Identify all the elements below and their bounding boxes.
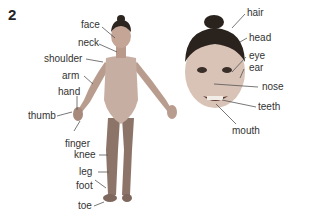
- label-nose: nose: [262, 82, 284, 92]
- label-foot: foot: [76, 181, 93, 191]
- label-mouth: mouth: [232, 126, 260, 136]
- label-neck: neck: [78, 38, 99, 48]
- label-leg: leg: [79, 167, 92, 177]
- label-eye: eye: [249, 51, 265, 61]
- label-teeth: teeth: [258, 102, 280, 112]
- label-head: head: [249, 33, 271, 43]
- label-hair: hair: [247, 8, 264, 18]
- label-arm: arm: [62, 71, 79, 81]
- label-thumb: thumb: [28, 111, 56, 121]
- label-knee: knee: [74, 150, 96, 160]
- label-hand: hand: [58, 87, 80, 97]
- label-face: face: [81, 20, 100, 30]
- label-shoulder: shoulder: [44, 54, 82, 64]
- label-finger: finger: [65, 139, 90, 149]
- label-toe: toe: [78, 201, 92, 211]
- label-ear: ear: [249, 63, 263, 73]
